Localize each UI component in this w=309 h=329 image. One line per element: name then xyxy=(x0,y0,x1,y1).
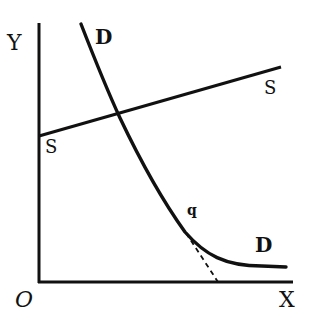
supply-demand-diagram: Y X O D D S S q xyxy=(0,0,309,329)
supply-label-left: S xyxy=(45,136,57,157)
demand-label-bottom: D xyxy=(255,233,272,257)
x-axis-label: X xyxy=(279,287,295,312)
point-q-label: q xyxy=(187,202,197,218)
y-axis-label: Y xyxy=(6,30,22,55)
supply-line xyxy=(39,67,281,136)
supply-label-right: S xyxy=(264,77,276,98)
origin-label: O xyxy=(15,287,33,312)
demand-label-top: D xyxy=(95,25,112,49)
demand-curve xyxy=(81,24,286,267)
